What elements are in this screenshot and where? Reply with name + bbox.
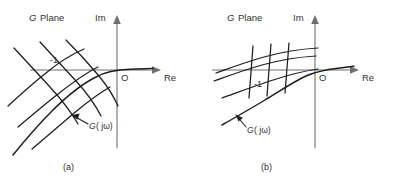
real-axis-label-a: Re — [164, 72, 176, 83]
figure-container: -1 O Re Im G Plane G ( jω) (a) — [0, 0, 396, 181]
locus-callout-b: G ( jω) — [236, 115, 271, 135]
locus-label-arg-b: ( jω) — [254, 125, 271, 135]
origin-label-b: O — [319, 72, 326, 83]
plane-label-italic-a: G — [29, 12, 36, 23]
imaginary-axis-arrowhead-a — [113, 15, 121, 24]
caption-a: (a) — [63, 162, 74, 172]
locus-label-g-a: G — [89, 121, 96, 131]
critical-point-label-b: -1 — [254, 79, 262, 89]
imaginary-axis-arrowhead-b — [311, 15, 319, 24]
plane-label-b: Plane — [238, 12, 262, 23]
panel-b: -1 O Re Im G Plane G ( jω) (b) — [198, 0, 396, 181]
plane-label-italic-b: G — [227, 12, 234, 23]
locus-label-arg-a: ( jω) — [96, 121, 113, 131]
imaginary-axis-label-a: Im — [95, 12, 106, 23]
imaginary-axis-label-b: Im — [293, 12, 304, 23]
imaginary-axis-a — [113, 15, 121, 148]
real-axis-label-b: Re — [362, 72, 374, 83]
caption-b: (b) — [261, 162, 272, 172]
plane-label-a: Plane — [40, 12, 64, 23]
critical-point-label-a: -1 — [50, 55, 58, 65]
nyquist-locus-a — [13, 68, 153, 155]
locus-callout-a: G ( jω) — [72, 114, 113, 132]
real-axis-b — [212, 66, 359, 74]
real-axis-arrowhead-b — [350, 66, 359, 74]
locus-label-g-b: G — [247, 125, 254, 135]
imaginary-axis-b — [311, 15, 319, 148]
locus-callout-arrowhead-b — [236, 115, 243, 122]
real-axis-arrowhead-a — [152, 66, 161, 74]
panel-a: -1 O Re Im G Plane G ( jω) (a) — [0, 0, 198, 181]
grid-family-2-a — [14, 40, 118, 124]
grid-family-1-a — [8, 49, 110, 149]
arc-family-b — [214, 48, 318, 98]
origin-label-a: O — [121, 72, 128, 83]
